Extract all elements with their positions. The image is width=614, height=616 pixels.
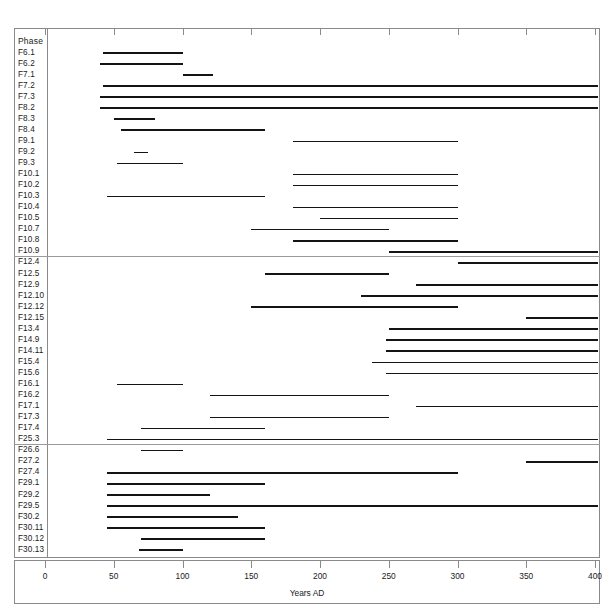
row-label: F27.2 — [18, 457, 39, 465]
row-label: F27.4 — [18, 468, 39, 476]
phase-range-bar — [103, 52, 183, 54]
row-label: F7.1 — [18, 71, 35, 79]
row-label: F12.9 — [18, 281, 39, 289]
phase-range-bar — [141, 428, 265, 430]
phase-range-bar — [107, 439, 598, 441]
row-label: F16.1 — [18, 380, 39, 388]
row-label: F10.9 — [18, 247, 39, 255]
label-column-divider — [47, 28, 48, 558]
chart-container: Phase F6.1F6.2F7.1F7.2F7.3F8.2F8.3F8.4F9… — [0, 0, 614, 616]
row-label: F30.12 — [18, 535, 44, 543]
row-label: F10.7 — [18, 225, 39, 233]
bottom-tick-mark — [458, 561, 459, 568]
bottom-tick-mark — [251, 561, 252, 568]
row-label: F29.5 — [18, 502, 39, 510]
row-label: F10.4 — [18, 203, 39, 211]
axis-tick-label: 0 — [25, 571, 65, 581]
phase-range-bar — [389, 251, 598, 253]
phase-range-bar — [251, 229, 389, 231]
row-label: F9.1 — [18, 137, 35, 145]
row-label: F17.4 — [18, 424, 39, 432]
phase-range-bar — [265, 273, 389, 275]
row-label: F14.9 — [18, 336, 39, 344]
group-separator — [14, 256, 600, 257]
row-label: F25.3 — [18, 435, 39, 443]
phase-range-bar — [386, 350, 598, 352]
row-label: F12.10 — [18, 292, 44, 300]
row-label: F8.2 — [18, 104, 35, 112]
row-label: F12.12 — [18, 303, 44, 311]
axis-tick-label: 150 — [231, 571, 271, 581]
phase-range-bar — [183, 74, 213, 76]
row-label: F30.2 — [18, 513, 39, 521]
row-label: F10.5 — [18, 214, 39, 222]
phase-range-bar — [141, 538, 265, 540]
axis-tick-label: 50 — [94, 571, 134, 581]
top-tick-mark — [45, 28, 46, 35]
row-label: F8.4 — [18, 126, 35, 134]
phase-range-bar — [107, 527, 265, 529]
phase-range-bar — [416, 406, 598, 408]
phase-range-bar — [107, 505, 598, 507]
phase-range-bar — [100, 63, 183, 65]
row-label: F14.11 — [18, 347, 43, 355]
row-label: F10.8 — [18, 236, 39, 244]
phase-range-bar — [293, 207, 458, 209]
row-label: F9.3 — [18, 159, 35, 167]
row-label: F15.6 — [18, 369, 39, 377]
top-tick-mark — [389, 28, 390, 35]
phase-range-bar — [141, 450, 182, 452]
phase-range-bar — [100, 96, 598, 98]
phase-range-bar — [107, 483, 265, 485]
row-label: F12.15 — [18, 314, 44, 322]
row-label: F6.2 — [18, 60, 35, 68]
phase-range-bar — [293, 141, 458, 143]
top-tick-mark — [251, 28, 252, 35]
phase-column-header: Phase — [18, 36, 43, 46]
group-separator — [14, 444, 600, 445]
row-label: F7.3 — [18, 93, 35, 101]
phase-range-bar — [458, 262, 598, 264]
row-label: F17.1 — [18, 402, 39, 410]
top-tick-mark — [526, 28, 527, 35]
row-label: F15.4 — [18, 358, 39, 366]
row-label: F30.13 — [18, 546, 44, 554]
top-tick-mark — [183, 28, 184, 35]
phase-range-bar — [100, 107, 598, 109]
row-label: F30.11 — [18, 524, 43, 532]
phase-range-bar — [361, 295, 598, 297]
bottom-tick-mark — [320, 561, 321, 568]
phase-range-bar — [293, 185, 458, 187]
top-tick-mark — [114, 28, 115, 35]
row-label: F6.1 — [18, 49, 35, 57]
axis-tick-label: 200 — [300, 571, 340, 581]
phase-range-bar — [117, 163, 183, 165]
row-label: F10.1 — [18, 170, 39, 178]
phase-range-bar — [386, 373, 598, 375]
phase-range-bar — [103, 85, 598, 87]
bottom-tick-mark — [183, 561, 184, 568]
top-tick-mark — [458, 28, 459, 35]
row-label: F26.6 — [18, 446, 39, 454]
row-label: F17.3 — [18, 413, 39, 421]
phase-range-bar — [526, 461, 598, 463]
phase-range-bar — [117, 384, 183, 386]
phase-range-bar — [114, 118, 155, 120]
phase-range-bar — [139, 549, 183, 551]
row-label: F29.1 — [18, 479, 39, 487]
phase-range-bar — [107, 516, 238, 518]
bottom-tick-mark — [389, 561, 390, 568]
row-label: F9.2 — [18, 148, 35, 156]
phase-range-bar — [134, 152, 148, 154]
axis-tick-label: 400 — [575, 571, 614, 581]
phase-range-bar — [107, 494, 210, 496]
row-label: F12.4 — [18, 258, 39, 266]
x-axis-label: Years AD — [0, 588, 614, 598]
row-label: F10.2 — [18, 181, 39, 189]
row-label: F29.2 — [18, 491, 39, 499]
phase-range-bar — [107, 196, 265, 198]
bottom-tick-mark — [595, 561, 596, 568]
phase-range-bar — [293, 240, 458, 242]
phase-range-bar — [107, 472, 458, 474]
phase-range-bar — [386, 339, 598, 341]
